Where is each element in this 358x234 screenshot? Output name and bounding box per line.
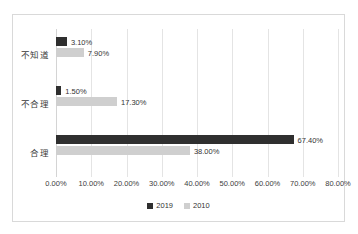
x-tick-label: 0.00% bbox=[45, 179, 66, 188]
bar-group: 合理67.40%38.00% bbox=[56, 127, 338, 176]
legend-item-2019[interactable]: 2019 bbox=[147, 201, 173, 210]
chart-frame: 不知道3.10%7.90%不合理1.50%17.30%合理67.40%38.00… bbox=[12, 14, 345, 222]
bar-row: 3.10% bbox=[56, 37, 338, 46]
bar-2010[interactable]: 38.00% bbox=[56, 146, 190, 155]
legend-swatch-icon bbox=[147, 203, 153, 209]
legend-item-2010[interactable]: 2010 bbox=[184, 201, 210, 210]
bar-2019[interactable]: 67.40% bbox=[56, 135, 294, 144]
legend-label: 2019 bbox=[156, 201, 173, 210]
chart-legend: 20192010 bbox=[13, 201, 344, 210]
x-tick-label: 30.00% bbox=[149, 179, 174, 188]
x-tick-label: 60.00% bbox=[255, 179, 280, 188]
bar-2010[interactable]: 17.30% bbox=[56, 97, 117, 106]
bar-group: 不合理1.50%17.30% bbox=[56, 78, 338, 127]
bar-2019[interactable]: 1.50% bbox=[56, 86, 61, 95]
bar-row: 67.40% bbox=[56, 135, 338, 144]
x-tick-label: 20.00% bbox=[114, 179, 139, 188]
bar-value-label: 38.00% bbox=[194, 146, 219, 155]
bar-value-label: 67.40% bbox=[298, 135, 323, 144]
bar-value-label: 1.50% bbox=[65, 86, 86, 95]
bar-value-label: 7.90% bbox=[88, 48, 109, 57]
x-axis-tick-labels: 0.00%10.00%20.00%30.00%40.00%50.00%60.00… bbox=[56, 179, 338, 193]
category-label: 不合理 bbox=[21, 97, 50, 109]
bar-row: 1.50% bbox=[56, 86, 338, 95]
bar-row: 38.00% bbox=[56, 146, 338, 155]
gridline-80.00% bbox=[338, 29, 339, 177]
bar-2019[interactable]: 3.10% bbox=[56, 37, 67, 46]
legend-label: 2010 bbox=[193, 201, 210, 210]
x-tick-label: 40.00% bbox=[184, 179, 209, 188]
plot-area: 不知道3.10%7.90%不合理1.50%17.30%合理67.40%38.00… bbox=[56, 29, 338, 177]
bar-value-label: 17.30% bbox=[121, 97, 146, 106]
bar-row: 17.30% bbox=[56, 97, 338, 106]
bar-2010[interactable]: 7.90% bbox=[56, 48, 84, 57]
bar-row: 7.90% bbox=[56, 48, 338, 57]
bar-value-label: 3.10% bbox=[71, 37, 92, 46]
category-label: 不知道 bbox=[21, 48, 50, 60]
x-tick-label: 50.00% bbox=[220, 179, 245, 188]
x-tick-label: 80.00% bbox=[325, 179, 350, 188]
x-tick-label: 70.00% bbox=[290, 179, 315, 188]
legend-swatch-icon bbox=[184, 203, 190, 209]
category-label: 合理 bbox=[30, 146, 49, 158]
bar-group: 不知道3.10%7.90% bbox=[56, 29, 338, 78]
x-tick-label: 10.00% bbox=[79, 179, 104, 188]
